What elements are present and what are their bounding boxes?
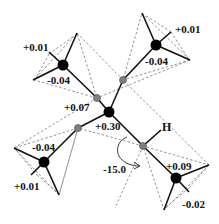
- label-methyl-tr-h: +0.01: [175, 23, 201, 35]
- label-methyl-bl-h: +0.01: [14, 180, 40, 192]
- label-gray-atom: +0.07: [64, 101, 90, 113]
- label-torsion-angle: -15.0: [103, 163, 126, 175]
- label-methyl-bl-c: -0.04: [32, 141, 55, 153]
- label-methyl-br-h: -0.02: [182, 198, 205, 210]
- label-methyl-tl-h: +0.01: [23, 41, 49, 53]
- label-hydrogen: H: [162, 120, 172, 134]
- label-methyl-tl-c: -0.04: [47, 74, 70, 86]
- methyl-carbon-top-left: [58, 60, 69, 71]
- methyl-carbon-bottom-left: [39, 157, 50, 168]
- label-methyl-tr-c: -0.04: [145, 55, 168, 67]
- gray-atom-upper-left: [94, 95, 101, 102]
- gray-atom-upper-right: [120, 77, 127, 84]
- methyl-carbon-top-right: [151, 40, 162, 51]
- molecule-diagram: +0.01 -0.04 +0.01 -0.04 -0.04 +0.01 +0.0…: [0, 0, 219, 224]
- label-central-carbon: +0.30: [95, 120, 121, 132]
- gray-atom-lower-right: [140, 143, 147, 150]
- gray-atom-lower-left: [75, 125, 82, 132]
- label-methyl-br-c: +0.09: [166, 160, 192, 172]
- central-carbon: [104, 107, 115, 118]
- methyl-carbon-bottom-right: [171, 173, 182, 184]
